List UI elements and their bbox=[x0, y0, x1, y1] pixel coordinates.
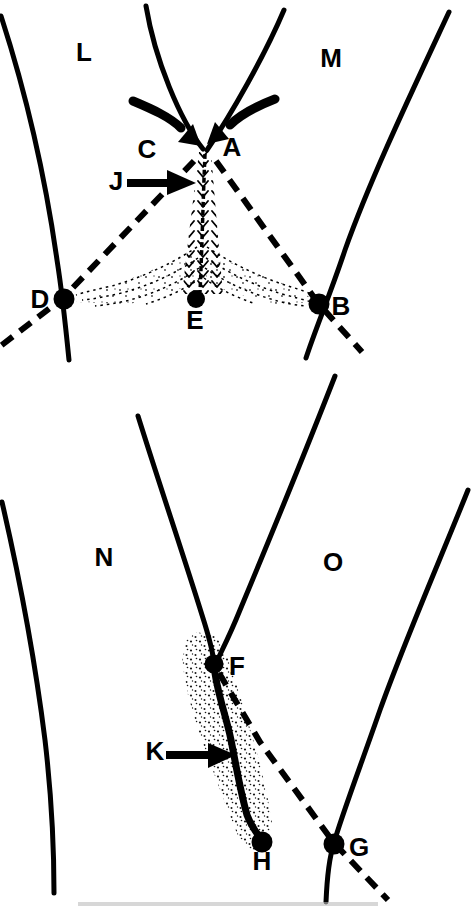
top-dashed-right bbox=[216, 161, 362, 352]
top-panel: L M C A J D B E bbox=[0, 6, 449, 360]
bottom-panel: N O F K H G bbox=[2, 376, 468, 906]
point-label-c: C bbox=[138, 134, 157, 164]
point-g-dot bbox=[324, 834, 345, 855]
point-label-b: B bbox=[332, 291, 351, 321]
point-label-a: A bbox=[223, 132, 242, 162]
point-f-dot bbox=[205, 655, 224, 674]
diagram-svg: L M C A J D B E N O bbox=[0, 0, 472, 906]
point-label-f: F bbox=[229, 651, 245, 681]
point-d-dot bbox=[54, 289, 75, 310]
bottom-right-boundary-curve bbox=[326, 490, 468, 902]
cropped-caption-remnant bbox=[78, 902, 378, 906]
point-label-g: G bbox=[349, 832, 369, 862]
point-label-k: K bbox=[146, 736, 165, 766]
j-pointer-arrow-icon bbox=[127, 170, 196, 195]
plate-label-l: L bbox=[76, 37, 92, 67]
plate-label-o: O bbox=[323, 547, 343, 577]
bottom-right-ridge-line bbox=[216, 376, 335, 663]
point-label-h: H bbox=[253, 846, 272, 876]
plate-label-n: N bbox=[95, 542, 114, 572]
plate-label-m: M bbox=[320, 43, 342, 73]
bottom-left-ridge-line bbox=[138, 416, 214, 663]
bottom-left-boundary-curve bbox=[2, 502, 54, 893]
fan-stipple-left bbox=[76, 247, 200, 306]
point-label-d: D bbox=[31, 284, 50, 314]
point-label-j: J bbox=[109, 166, 123, 196]
point-b-dot bbox=[309, 294, 330, 315]
figure-canvas: L M C A J D B E N O bbox=[0, 0, 472, 906]
top-dashed-left bbox=[0, 161, 194, 348]
point-label-e: E bbox=[186, 305, 203, 335]
